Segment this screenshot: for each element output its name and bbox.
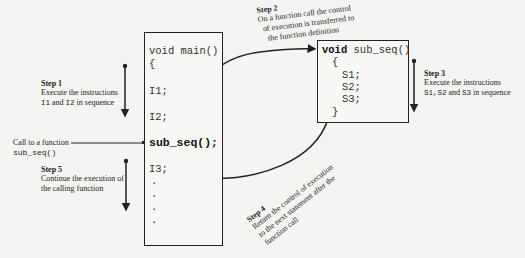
call-pointer-line xyxy=(71,141,145,144)
sub-name: sub_seq() xyxy=(354,44,411,56)
call-label-text: Call to a function xyxy=(13,138,69,148)
main-line-i3: I3; xyxy=(149,163,168,175)
step1-annotation: Step 1 Execute the instructions I1 and I… xyxy=(41,79,118,108)
main-line-i2: I2; xyxy=(149,111,168,123)
call-label: Call to a function sub_seq() xyxy=(13,138,69,158)
main-call-statement: sub_seq(); xyxy=(149,136,218,149)
main-line-i1: I1; xyxy=(149,85,168,97)
ellipsis-1: . xyxy=(151,175,157,187)
sub-open-brace: { xyxy=(332,56,338,68)
sub-close-brace: } xyxy=(332,106,338,118)
sub-line-s2: S2; xyxy=(342,81,361,93)
step5-arrow xyxy=(124,159,128,210)
ellipsis-4: . xyxy=(151,214,157,226)
sub-function-box: void sub_seq() { S1; S2; S3; } xyxy=(317,40,409,123)
main-function-box: void main() { I1; I2; sub_seq(); I3; . .… xyxy=(144,32,223,246)
step5-title: Step 5 xyxy=(41,165,124,174)
main-open-brace: { xyxy=(149,58,155,70)
sub-line-s3: S3; xyxy=(342,93,361,105)
main-header: void main() xyxy=(149,45,218,57)
call-label-code: sub_seq() xyxy=(13,148,69,158)
step1-text2: I1 and I2 in sequence xyxy=(41,98,118,108)
step5-text1: Continue the execution of xyxy=(41,174,124,184)
ellipsis-2: . xyxy=(151,188,157,200)
sub-line-s1: S1; xyxy=(342,69,361,81)
step3-arrow xyxy=(412,59,416,111)
step5-annotation: Step 5 Continue the execution of the cal… xyxy=(41,165,124,194)
sub-keyword: void xyxy=(322,44,347,56)
step5-text2: the calling function xyxy=(41,184,124,194)
step3-text1: Execute the instructions xyxy=(424,78,511,88)
step1-title: Step 1 xyxy=(41,79,118,88)
step3-title: Step 3 xyxy=(424,69,511,78)
sub-header: void sub_seq() xyxy=(322,44,410,56)
step3-annotation: Step 3 Execute the instructions S1,S2 an… xyxy=(424,69,511,98)
step1-text1: Execute the instructions xyxy=(41,88,118,98)
step1-arrow xyxy=(123,64,127,116)
ellipsis-3: . xyxy=(151,201,157,213)
step3-text2: S1,S2 and S3 in sequence xyxy=(424,88,511,98)
